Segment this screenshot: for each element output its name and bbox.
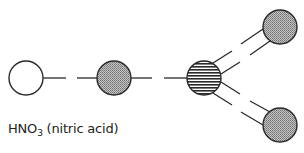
double-bond-n-o-lower (213, 82, 270, 125)
oxygen-atom-3 (263, 108, 297, 142)
nitrogen-atom (187, 61, 221, 95)
molecule-name: (nitric acid) (43, 121, 119, 136)
hydrogen-atom (9, 61, 43, 95)
formula-prefix: HNO (8, 121, 37, 136)
oxygen-atom-1 (97, 61, 131, 95)
double-bond-n-o-upper (213, 29, 270, 74)
molecule-label: HNO3 (nitric acid) (8, 121, 118, 136)
oxygen-atom-2 (263, 10, 297, 44)
